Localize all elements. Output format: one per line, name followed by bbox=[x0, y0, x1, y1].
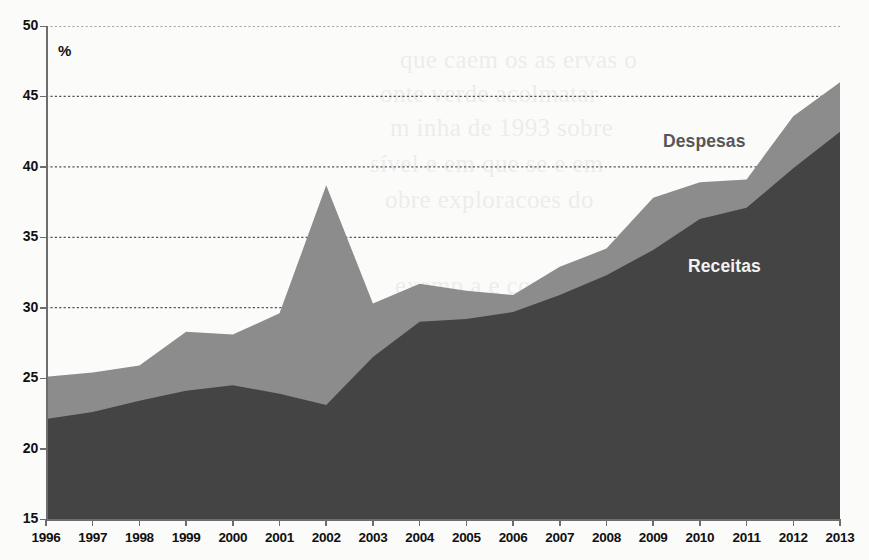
y-axis-tick-mark bbox=[40, 237, 47, 239]
y-axis-tick-mark bbox=[40, 448, 47, 450]
x-axis-tick-mark bbox=[466, 519, 468, 526]
x-axis-ticks: 1996199719981999200020012002200320042005… bbox=[0, 530, 869, 556]
series-label-despesas: Despesas bbox=[663, 131, 746, 152]
y-axis-ticks: 5045403530252015 bbox=[0, 0, 38, 560]
area-chart: 5045403530252015 19961997199819992000200… bbox=[0, 0, 869, 560]
x-axis-tick-mark bbox=[139, 519, 141, 526]
y-axis-tick-label: 25 bbox=[4, 369, 38, 385]
x-axis-line bbox=[46, 519, 841, 521]
x-axis-tick-mark bbox=[419, 519, 421, 526]
y-axis-tick-mark bbox=[40, 307, 47, 309]
y-axis-tick-mark bbox=[40, 166, 47, 168]
x-axis-tick-mark bbox=[232, 519, 234, 526]
x-axis-tick-mark bbox=[839, 519, 841, 526]
y-axis-tick-label: 15 bbox=[4, 510, 38, 526]
x-axis-tick-mark bbox=[699, 519, 701, 526]
x-axis-tick-mark bbox=[512, 519, 514, 526]
x-axis-tick-mark bbox=[279, 519, 281, 526]
y-axis-tick-label: 50 bbox=[4, 17, 38, 33]
x-axis-tick-mark bbox=[92, 519, 94, 526]
x-axis-tick-mark bbox=[559, 519, 561, 526]
x-axis-tick-mark bbox=[185, 519, 187, 526]
x-axis-tick-mark bbox=[45, 519, 47, 526]
y-axis-tick-mark bbox=[40, 26, 47, 28]
x-axis-tick-mark bbox=[652, 519, 654, 526]
y-axis-tick-label: 45 bbox=[4, 87, 38, 103]
y-axis-tick-label: 20 bbox=[4, 440, 38, 456]
x-axis-tick-mark bbox=[372, 519, 374, 526]
x-axis-tick-mark bbox=[793, 519, 795, 526]
x-axis-tick-mark bbox=[325, 519, 327, 526]
y-axis-tick-label: 30 bbox=[4, 299, 38, 315]
y-axis-tick-mark bbox=[40, 96, 47, 98]
x-axis-tick-label: 2013 bbox=[810, 530, 869, 545]
y-axis-tick-mark bbox=[40, 378, 47, 380]
series-label-receitas: Receitas bbox=[688, 256, 761, 277]
x-axis-tick-mark bbox=[746, 519, 748, 526]
y-axis-unit-label: % bbox=[58, 42, 71, 59]
y-axis-line bbox=[46, 26, 48, 520]
x-axis-tick-mark bbox=[606, 519, 608, 526]
y-axis-tick-label: 35 bbox=[4, 228, 38, 244]
y-axis-tick-label: 40 bbox=[4, 158, 38, 174]
